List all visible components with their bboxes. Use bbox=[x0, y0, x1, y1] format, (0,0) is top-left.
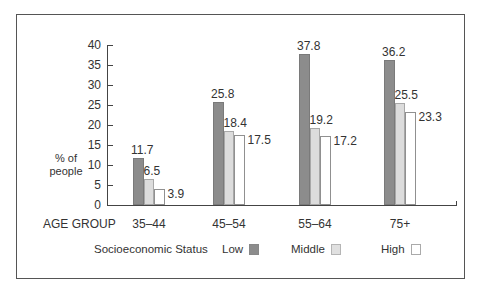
bar-middle bbox=[395, 103, 406, 205]
value-label-middle: 18.4 bbox=[224, 117, 247, 129]
value-label-high: 3.9 bbox=[168, 188, 185, 200]
y-tick-label: 20 bbox=[77, 119, 101, 131]
value-label-low: 25.8 bbox=[211, 88, 234, 100]
value-label-high: 17.2 bbox=[334, 135, 357, 147]
value-label-low: 11.7 bbox=[131, 144, 153, 156]
legend-swatch-high bbox=[411, 244, 421, 255]
legend-item-high: High bbox=[381, 241, 421, 257]
y-tick bbox=[107, 65, 113, 66]
value-label-middle: 25.5 bbox=[395, 89, 418, 101]
bar-high bbox=[320, 136, 331, 205]
value-label-high: 17.5 bbox=[248, 134, 271, 146]
bar-low bbox=[299, 54, 310, 205]
value-label-low: 36.2 bbox=[382, 46, 405, 58]
y-tick bbox=[107, 85, 113, 86]
value-label-middle: 6.5 bbox=[144, 165, 161, 177]
y-tick-label: 40 bbox=[77, 39, 101, 51]
legend-label-high: High bbox=[381, 243, 405, 255]
y-tick-label: 35 bbox=[77, 59, 101, 71]
x-axis-end-tick bbox=[456, 201, 457, 206]
legend-label-middle: Middle bbox=[291, 243, 325, 255]
category-label-75plus: 75+ bbox=[370, 218, 430, 230]
x-axis-title: AGE GROUP bbox=[43, 218, 116, 230]
y-tick-label: 15 bbox=[77, 139, 101, 151]
y-tick-label: 10 bbox=[77, 159, 101, 171]
value-label-high: 23.3 bbox=[419, 111, 442, 123]
bar-low bbox=[213, 102, 224, 205]
legend-title: Socioeconomic Status bbox=[94, 243, 208, 255]
y-tick-label: 0 bbox=[77, 199, 101, 211]
y-tick bbox=[107, 185, 113, 186]
legend-swatch-low bbox=[249, 244, 259, 255]
x-axis bbox=[107, 205, 457, 206]
legend-swatch-middle bbox=[331, 244, 341, 255]
bar-low bbox=[384, 60, 395, 205]
legend-item-low: Low bbox=[222, 241, 259, 257]
value-label-low: 37.8 bbox=[297, 40, 320, 52]
bar-middle bbox=[224, 131, 235, 205]
bar-high bbox=[405, 112, 416, 205]
bar-low bbox=[133, 158, 144, 205]
legend-item-middle: Middle bbox=[291, 241, 341, 257]
bar-middle bbox=[310, 128, 321, 205]
y-tick bbox=[107, 105, 113, 106]
category-label-35-44: 35–44 bbox=[119, 218, 179, 230]
bar-middle bbox=[144, 179, 155, 205]
legend-label-low: Low bbox=[222, 243, 243, 255]
y-tick bbox=[107, 205, 113, 206]
category-label-55-64: 55–64 bbox=[285, 218, 345, 230]
y-tick-label: 25 bbox=[77, 99, 101, 111]
y-tick bbox=[107, 125, 113, 126]
value-label-middle: 19.2 bbox=[310, 114, 333, 126]
bar-high bbox=[154, 189, 165, 205]
y-tick bbox=[107, 45, 113, 46]
y-tick-label: 30 bbox=[77, 79, 101, 91]
bar-high bbox=[234, 135, 245, 205]
y-tick-label: 5 bbox=[77, 179, 101, 191]
category-label-45-54: 45–54 bbox=[199, 218, 259, 230]
y-tick bbox=[107, 165, 113, 166]
y-tick bbox=[107, 145, 113, 146]
